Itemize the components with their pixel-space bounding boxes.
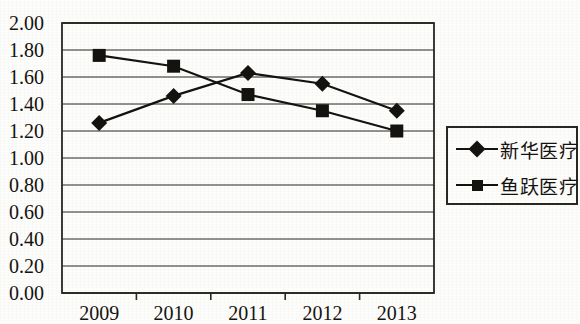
legend-marker-diamond-icon — [454, 138, 500, 160]
x-tick-label: 2012 — [282, 303, 362, 323]
legend-label-1: 鱼跃医疗 — [500, 172, 578, 199]
x-tick-label: 2013 — [357, 303, 437, 323]
legend-label-0: 新华医疗 — [500, 136, 578, 163]
x-tick-label: 2009 — [59, 303, 139, 323]
legend-marker-square-icon — [454, 174, 500, 196]
legend: 新华医疗 鱼跃医疗 — [446, 126, 578, 205]
legend-entry-1: 鱼跃医疗 — [448, 168, 576, 202]
x-tick-label: 2011 — [208, 303, 288, 323]
line-chart: 0.000.200.400.600.801.001.201.401.601.80… — [0, 0, 580, 324]
x-tick-label: 2010 — [134, 303, 214, 323]
legend-entry-0: 新华医疗 — [448, 132, 576, 166]
